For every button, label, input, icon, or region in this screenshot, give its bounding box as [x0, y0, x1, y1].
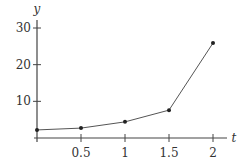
- y-tick-label: 20: [16, 58, 31, 72]
- y-axis-label: y: [33, 2, 41, 16]
- x-tick-label: 1.5: [159, 146, 178, 160]
- y-tick-label: 30: [16, 21, 31, 35]
- data-point: [35, 128, 39, 132]
- data-point: [211, 41, 215, 45]
- data-point: [123, 120, 127, 124]
- x-tick-label: 0.5: [71, 146, 90, 160]
- data-point: [167, 108, 171, 112]
- axes: yt1020300.511.52: [16, 2, 237, 160]
- x-tick-label: 2: [209, 146, 217, 160]
- line-chart: yt1020300.511.52: [0, 0, 247, 166]
- plot-area: [35, 41, 215, 132]
- data-point: [79, 126, 83, 130]
- x-tick-label: 1: [121, 146, 129, 160]
- x-axis-label: t: [232, 131, 237, 145]
- y-tick-label: 10: [16, 94, 31, 108]
- series-line: [37, 43, 213, 130]
